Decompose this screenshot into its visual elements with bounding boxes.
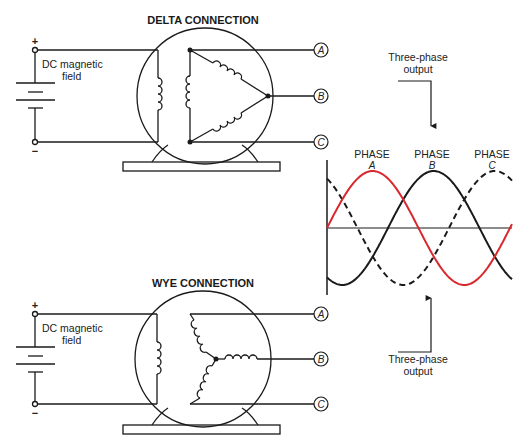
delta-connection-diagram: DELTA CONNECTION + − DC magnetic field bbox=[16, 14, 328, 171]
wye-title: WYE CONNECTION bbox=[152, 277, 254, 289]
negative-terminal-icon bbox=[33, 140, 38, 145]
phase-a-label: PHASE bbox=[354, 148, 390, 160]
wye-terminal-b: B bbox=[314, 352, 328, 366]
wye-terminal-c: C bbox=[314, 397, 328, 411]
node-dot-icon bbox=[188, 140, 193, 145]
arrow-down-icon bbox=[398, 81, 431, 126]
positive-terminal-icon bbox=[33, 48, 38, 53]
output-label-bottom-2: output bbox=[403, 365, 432, 377]
output-label-top-2: output bbox=[403, 63, 432, 75]
generator-diagram: DELTA CONNECTION + − DC magnetic field bbox=[0, 0, 525, 447]
wye-terminal-a: A bbox=[314, 307, 328, 321]
delta-terminal-b: B bbox=[314, 89, 328, 103]
dc-label: DC magnetic bbox=[42, 58, 103, 70]
dc-label-2: field bbox=[62, 334, 81, 346]
svg-text:A: A bbox=[317, 309, 325, 320]
wye-winding-icon bbox=[190, 314, 320, 404]
wye-connection-diagram: WYE CONNECTION + − DC magnetic field bbox=[16, 277, 328, 434]
minus-sign: − bbox=[32, 407, 38, 419]
svg-text:C: C bbox=[488, 160, 496, 171]
delta-title: DELTA CONNECTION bbox=[147, 14, 259, 26]
delta-terminal-c: C bbox=[314, 135, 328, 149]
minus-sign: − bbox=[32, 145, 38, 157]
negative-terminal-icon bbox=[33, 402, 38, 407]
phase-b-label: PHASE bbox=[414, 148, 450, 160]
node-dot-icon bbox=[188, 48, 193, 53]
node-dot-icon bbox=[266, 94, 271, 99]
dc-label: DC magnetic bbox=[42, 322, 103, 334]
three-phase-waveform: Three-phase output PHASE A PHASE B PHASE… bbox=[327, 51, 512, 377]
delta-stator-circle bbox=[137, 28, 273, 164]
plus-sign: + bbox=[32, 299, 38, 311]
svg-text:B: B bbox=[318, 354, 325, 365]
svg-text:B: B bbox=[429, 160, 436, 171]
wye-neutral-node-icon bbox=[214, 357, 219, 362]
svg-text:B: B bbox=[318, 91, 325, 102]
wye-stator-circle bbox=[135, 291, 271, 427]
delta-winding-icon bbox=[186, 50, 314, 142]
positive-terminal-icon bbox=[33, 312, 38, 317]
svg-text:C: C bbox=[317, 137, 325, 148]
arrow-up-icon bbox=[398, 298, 431, 352]
delta-field-coil-icon bbox=[158, 50, 162, 142]
delta-motor-base bbox=[123, 145, 280, 171]
svg-text:C: C bbox=[317, 399, 325, 410]
output-label-bottom: Three-phase bbox=[388, 353, 448, 365]
output-label-top: Three-phase bbox=[388, 51, 448, 63]
plus-sign: + bbox=[32, 35, 38, 47]
delta-terminal-a: A bbox=[314, 43, 328, 57]
svg-text:A: A bbox=[368, 160, 376, 171]
wye-field-coil-icon bbox=[157, 314, 161, 404]
dc-label-2: field bbox=[62, 70, 81, 82]
wye-motor-base bbox=[123, 408, 280, 434]
svg-text:A: A bbox=[317, 45, 325, 56]
phase-c-label: PHASE bbox=[474, 148, 510, 160]
